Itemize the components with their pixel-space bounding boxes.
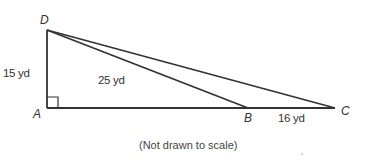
point-label-b: B <box>244 111 252 125</box>
measure-bc: 16 yd <box>278 112 305 124</box>
point-label-d: D <box>40 13 49 27</box>
scale-note: (Not drawn to scale) <box>139 139 237 151</box>
segment-db <box>47 30 248 108</box>
speck <box>301 153 302 154</box>
point-label-c: C <box>341 104 350 118</box>
triangle-diagram: D A B C 15 yd 25 yd 16 yd (Not drawn to … <box>0 0 383 160</box>
segment-dc <box>47 30 335 108</box>
point-label-a: A <box>32 107 41 121</box>
right-angle-marker <box>47 97 58 108</box>
measure-da: 15 yd <box>3 67 30 79</box>
measure-db: 25 yd <box>98 74 125 86</box>
